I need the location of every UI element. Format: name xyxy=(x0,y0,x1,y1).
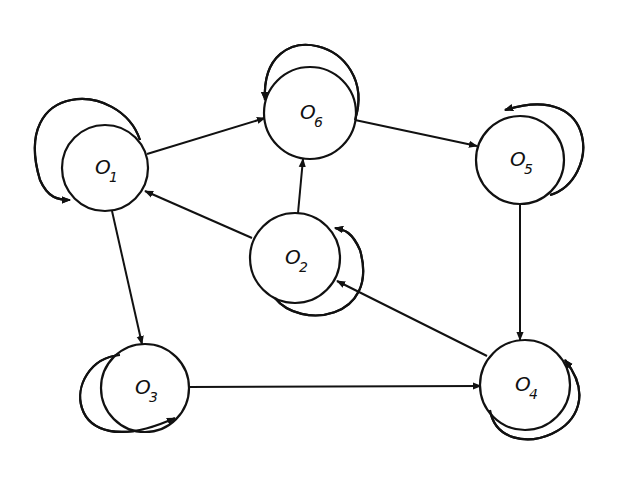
node-subscript: 2 xyxy=(299,259,308,275)
node-o4: O4 xyxy=(480,340,570,430)
node-subscript: 4 xyxy=(529,386,538,402)
node-o2: O2 xyxy=(250,213,340,303)
node-o1: O1 xyxy=(62,125,148,211)
node-subscript: 5 xyxy=(524,161,533,177)
edge-o2-o1 xyxy=(145,191,252,238)
edge-o1-o6 xyxy=(147,118,265,154)
edge-o1-o3 xyxy=(112,211,142,344)
node-subscript: 3 xyxy=(149,389,158,405)
nodes: O1O6O5O2O3O4 xyxy=(62,67,570,432)
node-subscript: 6 xyxy=(314,114,323,130)
directed-graph-diagram: O1O6O5O2O3O4 xyxy=(0,0,630,478)
node-o5: O5 xyxy=(476,116,564,204)
edge-o6-o2 xyxy=(298,159,303,213)
node-subscript: 1 xyxy=(109,169,118,185)
node-o6: O6 xyxy=(264,67,356,159)
edge-o3-o4 xyxy=(189,386,481,387)
node-o3: O3 xyxy=(101,344,189,432)
edge-o6-o5 xyxy=(355,120,477,146)
